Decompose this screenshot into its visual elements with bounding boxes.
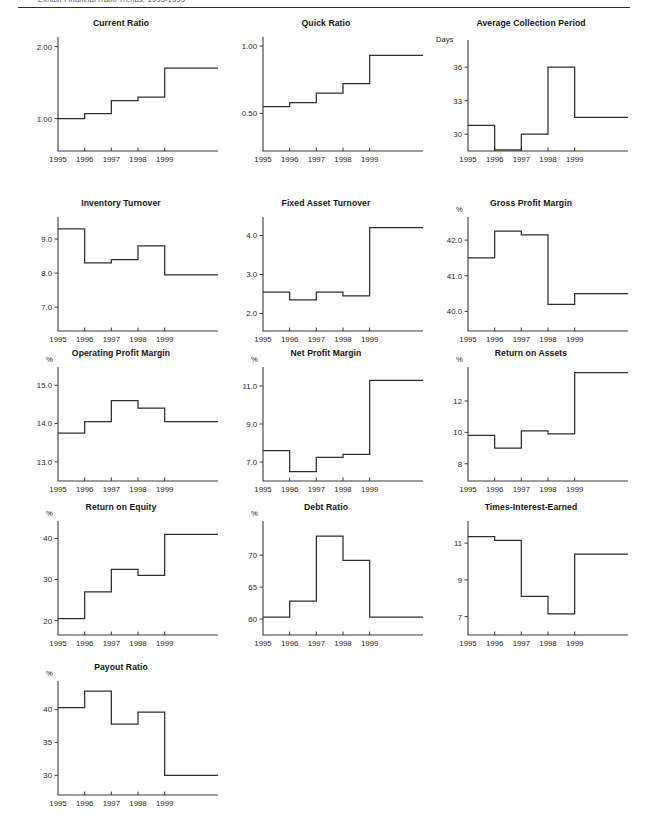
chart-plot-quick-ratio: 0.501.0019951996199719981999 bbox=[223, 18, 429, 178]
ytick-label: 0.50 bbox=[242, 109, 258, 118]
chart-return-on-assets: Return on Assets%81012199519961997199819… bbox=[428, 348, 634, 508]
series-line-average-collection-period bbox=[468, 67, 628, 150]
xtick-label: 1998 bbox=[539, 485, 556, 494]
ytick-label: 41.0 bbox=[447, 272, 463, 281]
ytick-label: 1.00 bbox=[242, 42, 258, 51]
chart-average-collection-period: Average Collection PeriodDays30333619951… bbox=[428, 18, 634, 178]
chart-plot-debt-ratio: 60657019951996199719981999 bbox=[223, 502, 429, 662]
chart-plot-inventory-turnover: 7.08.09.019951996199719981999 bbox=[18, 198, 224, 358]
series-line-payout-ratio bbox=[58, 691, 218, 775]
xtick-label: 1997 bbox=[513, 155, 530, 164]
xtick-label: 1998 bbox=[129, 335, 146, 344]
chart-plot-operating-profit-margin: 13.014.015.019951996199719981999 bbox=[18, 348, 224, 508]
xtick-label: 1996 bbox=[281, 639, 298, 648]
xtick-label: 1996 bbox=[486, 335, 503, 344]
xtick-label: 1998 bbox=[129, 639, 146, 648]
chart-times-interest-earned: Times-Interest-Earned7911199519961997199… bbox=[428, 502, 634, 662]
xtick-label: 1996 bbox=[76, 335, 93, 344]
xtick-label: 1996 bbox=[76, 639, 93, 648]
xtick-label: 1995 bbox=[254, 639, 272, 648]
chart-plot-fixed-asset-turnover: 2.03.04.019951996199719981999 bbox=[223, 198, 429, 358]
ytick-label: 15.0 bbox=[37, 381, 53, 390]
xtick-label: 1997 bbox=[103, 335, 120, 344]
xtick-label: 1997 bbox=[513, 485, 530, 494]
xtick-label: 1999 bbox=[156, 335, 173, 344]
ytick-label: 30 bbox=[43, 771, 52, 780]
xtick-label: 1998 bbox=[539, 335, 556, 344]
chart-net-profit-margin: Net Profit Margin%7.09.011.0199519961997… bbox=[223, 348, 429, 508]
xtick-label: 1995 bbox=[459, 485, 477, 494]
series-line-net-profit-margin bbox=[263, 380, 423, 471]
chart-return-on-equity: Return on Equity%20304019951996199719981… bbox=[18, 502, 224, 662]
ytick-label: 70 bbox=[248, 551, 257, 560]
chart-gross-profit-margin: Gross Profit Margin%40.041.042.019951996… bbox=[428, 198, 634, 358]
xtick-label: 1996 bbox=[76, 485, 93, 494]
xtick-label: 1996 bbox=[486, 155, 503, 164]
series-line-operating-profit-margin bbox=[58, 401, 218, 434]
xtick-label: 1996 bbox=[76, 799, 93, 808]
ytick-label: 8.0 bbox=[41, 269, 53, 278]
page-header-text: Exhibit Financial Ratio Trends, 1995-199… bbox=[38, 0, 185, 4]
series-line-return-on-assets bbox=[468, 373, 628, 448]
xtick-label: 1996 bbox=[281, 335, 298, 344]
xtick-label: 1999 bbox=[361, 155, 378, 164]
page-header-rule bbox=[18, 7, 630, 8]
xtick-label: 1996 bbox=[76, 155, 93, 164]
xtick-label: 1997 bbox=[103, 799, 120, 808]
xtick-label: 1997 bbox=[308, 485, 325, 494]
xtick-label: 1995 bbox=[254, 155, 272, 164]
series-line-current-ratio bbox=[58, 68, 218, 118]
xtick-label: 1997 bbox=[513, 335, 530, 344]
chart-fixed-asset-turnover: Fixed Asset Turnover2.03.04.019951996199… bbox=[223, 198, 429, 358]
chart-operating-profit-margin: Operating Profit Margin%13.014.015.01995… bbox=[18, 348, 224, 508]
ytick-label: 11 bbox=[454, 539, 462, 548]
chart-plot-gross-profit-margin: 40.041.042.019951996199719981999 bbox=[428, 198, 634, 358]
ytick-label: 14.0 bbox=[37, 419, 53, 428]
chart-plot-net-profit-margin: 7.09.011.019951996199719981999 bbox=[223, 348, 429, 508]
series-line-gross-profit-margin bbox=[468, 231, 628, 304]
xtick-label: 1997 bbox=[103, 155, 120, 164]
xtick-label: 1999 bbox=[566, 335, 583, 344]
chart-payout-ratio: Payout Ratio%30354019951996199719981999 bbox=[18, 662, 224, 818]
ytick-label: 20 bbox=[43, 617, 52, 626]
xtick-label: 1997 bbox=[308, 639, 325, 648]
chart-plot-return-on-equity: 20304019951996199719981999 bbox=[18, 502, 224, 662]
series-line-debt-ratio bbox=[263, 536, 423, 617]
ytick-label: 13.0 bbox=[37, 458, 53, 467]
xtick-label: 1998 bbox=[129, 799, 146, 808]
chart-plot-times-interest-earned: 791119951996199719981999 bbox=[428, 502, 634, 662]
xtick-label: 1999 bbox=[156, 485, 173, 494]
ytick-label: 60 bbox=[248, 615, 257, 624]
chart-plot-average-collection-period: 30333619951996199719981999 bbox=[428, 18, 634, 178]
series-line-return-on-equity bbox=[58, 534, 218, 618]
ytick-label: 4.0 bbox=[246, 231, 258, 240]
xtick-label: 1995 bbox=[49, 335, 67, 344]
ytick-label: 9 bbox=[458, 576, 462, 585]
ytick-label: 10 bbox=[453, 428, 462, 437]
xtick-label: 1999 bbox=[566, 485, 583, 494]
xtick-label: 1998 bbox=[334, 639, 351, 648]
series-line-fixed-asset-turnover bbox=[263, 228, 423, 300]
xtick-label: 1995 bbox=[254, 485, 272, 494]
ytick-label: 7 bbox=[458, 613, 462, 622]
xtick-label: 1996 bbox=[486, 485, 503, 494]
ytick-label: 65 bbox=[248, 583, 257, 592]
xtick-label: 1996 bbox=[486, 639, 503, 648]
ytick-label: 30 bbox=[453, 130, 462, 139]
chart-plot-return-on-assets: 8101219951996199719981999 bbox=[428, 348, 634, 508]
chart-grid: Current Ratio1.002.001995199619971998199… bbox=[0, 10, 646, 818]
ytick-label: 2.0 bbox=[246, 309, 258, 318]
xtick-label: 1999 bbox=[156, 799, 173, 808]
chart-inventory-turnover: Inventory Turnover7.08.09.01995199619971… bbox=[18, 198, 224, 358]
ytick-label: 36 bbox=[453, 63, 462, 72]
xtick-label: 1998 bbox=[334, 155, 351, 164]
chart-current-ratio: Current Ratio1.002.001995199619971998199… bbox=[18, 18, 224, 178]
xtick-label: 1995 bbox=[49, 799, 67, 808]
xtick-label: 1995 bbox=[49, 485, 67, 494]
series-line-inventory-turnover bbox=[58, 229, 218, 275]
chart-plot-payout-ratio: 30354019951996199719981999 bbox=[18, 662, 224, 818]
xtick-label: 1999 bbox=[566, 639, 583, 648]
xtick-label: 1999 bbox=[361, 485, 378, 494]
xtick-label: 1998 bbox=[539, 155, 556, 164]
xtick-label: 1999 bbox=[156, 155, 173, 164]
